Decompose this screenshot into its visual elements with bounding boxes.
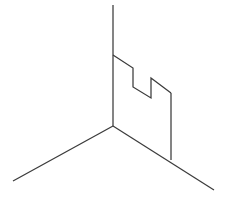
isometric-corner-wall-figure: Isometric corner wall line drawing Monoc… [0,0,225,210]
